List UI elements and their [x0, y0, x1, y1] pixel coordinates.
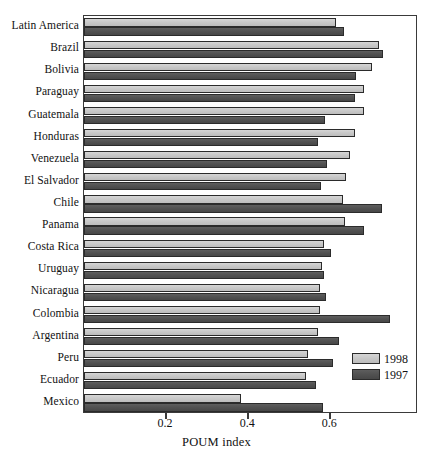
bar-costa-rica-1998	[84, 240, 324, 248]
poum-index-chart: Latin AmericaBrazilBoliviaParaguayGuatem…	[0, 0, 433, 471]
bar-venezuela-1998	[84, 151, 350, 159]
bar-bolivia-1997	[84, 72, 356, 80]
y-axis-label-uruguay: Uruguay	[0, 263, 79, 275]
y-axis-label-argentina: Argentina	[0, 330, 79, 342]
bar-mexico-1997	[84, 403, 323, 411]
legend-item-1997: 1997	[352, 368, 412, 381]
bar-el-salvador-1998	[84, 173, 346, 181]
y-axis-label-brazil: Brazil	[0, 42, 79, 54]
y-axis-label-nicaragua: Nicaragua	[0, 285, 79, 297]
bar-latin-america-1998	[84, 18, 336, 26]
bar-peru-1997	[84, 359, 333, 367]
bar-ecuador-1997	[84, 381, 316, 389]
bar-el-salvador-1997	[84, 182, 321, 190]
legend-label-1998: 1998	[384, 353, 408, 365]
bar-uruguay-1997	[84, 271, 324, 279]
y-axis-label-paraguay: Paraguay	[0, 86, 79, 98]
category-axis-labels: Latin AmericaBrazilBoliviaParaguayGuatem…	[0, 15, 79, 413]
bar-brazil-1997	[84, 50, 383, 58]
y-axis-label-panama: Panama	[0, 219, 79, 231]
x-tick-label-0.4: 0.4	[240, 417, 255, 429]
bar-paraguay-1997	[84, 94, 355, 102]
y-axis-label-ecuador: Ecuador	[0, 374, 79, 386]
bar-mexico-1998	[84, 394, 241, 402]
y-axis-label-venezuela: Venezuela	[0, 153, 79, 165]
bar-argentina-1997	[84, 337, 339, 345]
bar-argentina-1998	[84, 328, 318, 336]
x-tick-label-0.2: 0.2	[158, 417, 173, 429]
bar-honduras-1998	[84, 129, 355, 137]
legend-item-1998: 1998	[352, 352, 412, 365]
y-axis-label-guatemala: Guatemala	[0, 109, 79, 121]
bar-nicaragua-1998	[84, 284, 320, 292]
bar-uruguay-1998	[84, 262, 322, 270]
bar-panama-1998	[84, 217, 345, 225]
y-axis-label-el-salvador: El Salvador	[0, 175, 79, 187]
bar-brazil-1998	[84, 41, 379, 49]
y-axis-label-honduras: Honduras	[0, 131, 79, 143]
bar-nicaragua-1997	[84, 293, 326, 301]
bar-chile-1998	[84, 195, 343, 203]
bar-venezuela-1997	[84, 160, 327, 168]
y-axis-label-costa-rica: Costa Rica	[0, 241, 79, 253]
legend-swatch-1997	[352, 369, 380, 380]
bar-colombia-1997	[84, 315, 390, 323]
chart-legend: 1998 1997	[352, 352, 412, 384]
bar-paraguay-1998	[84, 85, 364, 93]
bar-panama-1997	[84, 226, 364, 234]
bar-bolivia-1998	[84, 63, 372, 71]
bar-chile-1997	[84, 204, 382, 212]
bar-guatemala-1997	[84, 116, 325, 124]
bar-honduras-1997	[84, 138, 318, 146]
bar-latin-america-1997	[84, 27, 344, 35]
bar-ecuador-1998	[84, 372, 306, 380]
y-axis-label-latin-america: Latin America	[0, 20, 79, 32]
bar-peru-1998	[84, 350, 308, 358]
y-axis-label-chile: Chile	[0, 197, 79, 209]
legend-swatch-1998	[352, 353, 380, 364]
x-axis-title: POUM index	[0, 436, 433, 449]
y-axis-label-colombia: Colombia	[0, 308, 79, 320]
legend-label-1997: 1997	[384, 369, 408, 381]
bar-costa-rica-1997	[84, 249, 331, 257]
bar-guatemala-1998	[84, 107, 364, 115]
y-axis-label-mexico: Mexico	[0, 396, 79, 408]
bar-colombia-1998	[84, 306, 320, 314]
y-axis-label-bolivia: Bolivia	[0, 64, 79, 76]
x-tick-label-0.6: 0.6	[322, 417, 337, 429]
y-axis-label-peru: Peru	[0, 352, 79, 364]
